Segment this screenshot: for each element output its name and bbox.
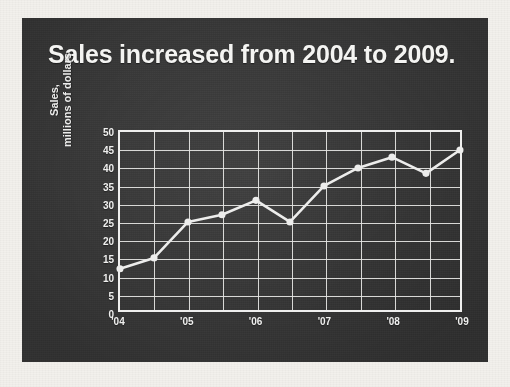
data-point-marker (116, 265, 123, 272)
y-tick-label: 10 (103, 272, 114, 283)
series-line (120, 150, 460, 269)
x-tick-label: '09 (455, 316, 469, 327)
y-tick-label: 40 (103, 163, 114, 174)
data-point-marker (252, 197, 259, 204)
x-tick-label: '07 (318, 316, 332, 327)
y-tick-label: 25 (103, 218, 114, 229)
data-point-marker (354, 164, 361, 171)
y-axis-label: Sales, millions of dollars (48, 40, 74, 160)
data-point-marker (218, 211, 225, 218)
slide-panel: Sales increased from 2004 to 2009. Sales… (22, 18, 488, 362)
y-tick-label: 5 (108, 290, 114, 301)
data-point-marker (456, 146, 463, 153)
y-tick-label: 50 (103, 127, 114, 138)
data-point-marker (286, 218, 293, 225)
y-axis-tick-labels: 50454035302520151050 (80, 130, 114, 312)
data-point-marker (422, 170, 429, 177)
x-axis-tick-labels: '04'05'06'07'08'09 (118, 316, 462, 334)
y-tick-label: 20 (103, 236, 114, 247)
x-tick-label: '04 (111, 316, 125, 327)
data-point-marker (320, 182, 327, 189)
data-point-marker (150, 254, 157, 261)
y-tick-label: 15 (103, 254, 114, 265)
y-tick-label: 30 (103, 199, 114, 210)
plot-area (118, 130, 462, 312)
x-tick-label: '08 (386, 316, 400, 327)
y-tick-label: 35 (103, 181, 114, 192)
y-tick-label: 45 (103, 145, 114, 156)
data-point-marker (184, 218, 191, 225)
x-tick-label: '05 (180, 316, 194, 327)
slide-title: Sales increased from 2004 to 2009. (48, 40, 455, 69)
data-series-sales (120, 132, 460, 312)
line-chart: Sales, millions of dollars 5045403530252… (52, 102, 472, 332)
data-point-marker (388, 154, 395, 161)
x-tick-label: '06 (249, 316, 263, 327)
